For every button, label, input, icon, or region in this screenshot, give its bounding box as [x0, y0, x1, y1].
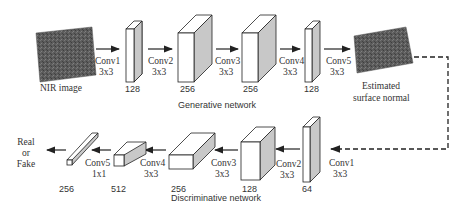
disc-conv3-kernel: 3x3: [215, 169, 229, 180]
disc-conv2-name: Conv2: [276, 159, 301, 170]
disc-conv4-name: Conv4: [140, 158, 165, 169]
disc-ch-5: 256: [59, 184, 74, 195]
gen-conv4-name: Conv4: [279, 56, 304, 67]
gen-ch-3: 256: [243, 84, 258, 95]
surface-normal-label-1: Estimated: [362, 81, 400, 92]
gen-ch-1: 128: [125, 84, 140, 95]
disc-block-3: [169, 133, 215, 169]
nir-image: [36, 27, 96, 82]
gen-conv5-kernel: 3x3: [330, 67, 344, 78]
gen-conv3-name: Conv3: [215, 56, 240, 67]
fake-label: Fake: [13, 159, 39, 170]
gen-conv1-kernel: 3x3: [99, 67, 113, 78]
real-label: Real: [13, 137, 39, 148]
disc-conv3-name: Conv3: [211, 158, 236, 169]
nir-image-label: NIR image: [40, 83, 82, 94]
gen-conv1-name: Conv1: [95, 56, 120, 67]
gen-ch-2: 256: [180, 84, 195, 95]
disc-block-2: [241, 127, 275, 180]
surface-normal-label-2: surface normal: [353, 93, 410, 104]
disc-block-1: [303, 117, 320, 182]
disc-conv4-kernel: 3x3: [144, 169, 158, 180]
generative-network-title: Generative network: [178, 100, 256, 111]
disc-conv5-kernel: 1x1: [92, 169, 106, 180]
gen-block-3: [242, 15, 276, 82]
gen-conv2-kernel: 3x3: [152, 67, 166, 78]
gen-conv5-name: Conv5: [326, 56, 351, 67]
discriminative-network-title: Discriminative network: [171, 193, 261, 204]
gen-conv4-kernel: 3x3: [283, 67, 297, 78]
disc-ch-1: 64: [302, 184, 312, 195]
disc-conv5-name: Conv5: [85, 158, 110, 169]
or-label: or: [13, 148, 39, 159]
disc-ch-4: 512: [111, 184, 126, 195]
gen-conv2-name: Conv2: [148, 56, 173, 67]
surface-normal-image: [354, 27, 413, 73]
gen-ch-4: 128: [304, 84, 319, 95]
gen-block-1: [126, 21, 142, 82]
gen-conv3-kernel: 3x3: [219, 67, 233, 78]
disc-conv1-name: Conv1: [329, 158, 354, 169]
gen-block-4: [305, 21, 320, 82]
disc-conv2-kernel: 3x3: [280, 170, 294, 181]
disc-conv1-kernel: 3x3: [333, 169, 347, 180]
gen-block-2: [178, 15, 212, 82]
